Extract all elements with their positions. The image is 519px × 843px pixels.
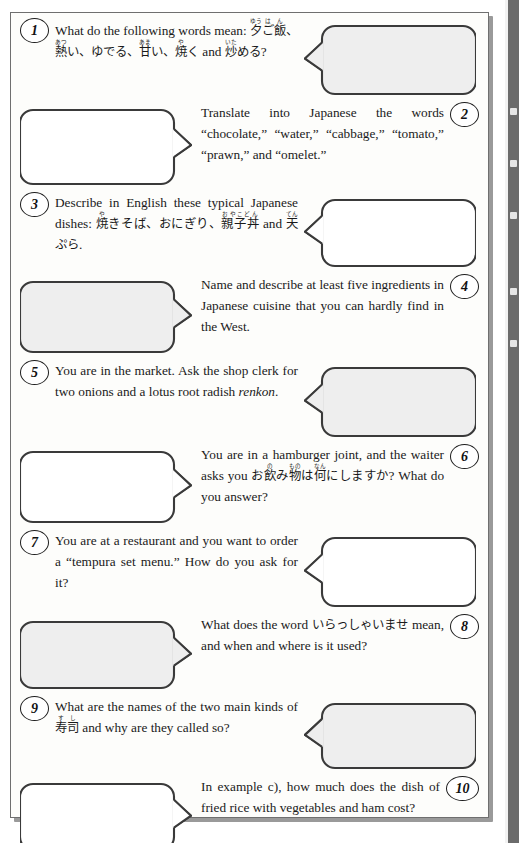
answer-speech-bubble[interactable]: [304, 18, 479, 96]
answer-speech-bubble[interactable]: [20, 444, 195, 524]
exercise-list: 1What do the following words mean: 夕ゆうご飯…: [10, 12, 489, 818]
exercise-item: 1What do the following words mean: 夕ゆうご飯…: [20, 18, 479, 102]
bubble-body: [322, 200, 476, 266]
exercise-item: Translate into Japanese the words “choco…: [20, 102, 479, 192]
exercise-question-text: You are in the market. Ask the shop cler…: [49, 360, 304, 402]
answer-speech-bubble[interactable]: [20, 274, 195, 354]
exercise-number-badge: 6: [450, 444, 479, 469]
exercise-item: In example c), how much does the dish of…: [20, 776, 479, 843]
exercise-item: 7You are at a restaurant and you want to…: [20, 530, 479, 614]
bubble-body: [20, 784, 174, 843]
exercise-question-text: What does the word いらっしゃいませ mean, and wh…: [195, 614, 450, 656]
exercise-question-text: What are the names of the two main kinds…: [49, 696, 304, 738]
exercise-item: 5You are in the market. Ask the shop cle…: [20, 360, 479, 444]
exercise-question-text: Describe in English these typical Japane…: [49, 192, 304, 255]
exercise-number-badge: 7: [20, 530, 49, 555]
bubble-body: [322, 26, 476, 94]
exercise-number-badge: 4: [450, 274, 479, 299]
exercise-item: Name and describe at least five ingredie…: [20, 274, 479, 360]
exercise-number-badge: 10: [446, 776, 479, 801]
exercise-question-text: You are in a hamburger joint, and the wa…: [195, 444, 450, 507]
exercise-item: 3Describe in English these typical Japan…: [20, 192, 479, 274]
bubble-body: [322, 368, 476, 436]
answer-speech-bubble[interactable]: [304, 192, 479, 268]
bubble-body: [322, 704, 476, 768]
exercise-number-badge: 8: [450, 614, 479, 639]
exercise-question-text: Translate into Japanese the words “choco…: [195, 102, 450, 165]
exercise-number-badge: 1: [20, 18, 49, 43]
page-edge-mark: [510, 160, 517, 167]
bubble-body: [20, 452, 174, 522]
book-page-edge-band: [505, 0, 519, 843]
answer-speech-bubble[interactable]: [304, 530, 479, 608]
bubble-body: [20, 282, 174, 352]
page-edge-mark: [510, 212, 517, 219]
exercise-question-text: In example c), how much does the dish of…: [195, 776, 446, 818]
answer-speech-bubble[interactable]: [304, 360, 479, 438]
bubble-body: [20, 110, 174, 184]
answer-speech-bubble[interactable]: [20, 776, 195, 843]
exercise-question-text: You are at a restaurant and you want to …: [49, 530, 304, 593]
page-edge-mark: [510, 108, 517, 115]
exercise-item: You are in a hamburger joint, and the wa…: [20, 444, 479, 530]
exercise-number-badge: 9: [20, 696, 49, 721]
page-edge-mark: [510, 288, 517, 295]
exercise-number-badge: 3: [20, 192, 49, 217]
answer-speech-bubble[interactable]: [304, 696, 479, 770]
bubble-body: [20, 622, 174, 688]
answer-speech-bubble[interactable]: [20, 614, 195, 690]
exercise-number-badge: 2: [450, 102, 479, 127]
exercise-question-text: Name and describe at least five ingredie…: [195, 274, 450, 337]
exercise-item: What does the word いらっしゃいませ mean, and wh…: [20, 614, 479, 696]
bubble-body: [322, 538, 476, 606]
exercise-number-badge: 5: [20, 360, 49, 385]
answer-speech-bubble[interactable]: [20, 102, 195, 186]
exercise-question-text: What do the following words mean: 夕ゆうご飯は…: [49, 18, 304, 62]
page-edge-mark: [510, 340, 517, 347]
exercise-item: 9What are the names of the two main kind…: [20, 696, 479, 776]
